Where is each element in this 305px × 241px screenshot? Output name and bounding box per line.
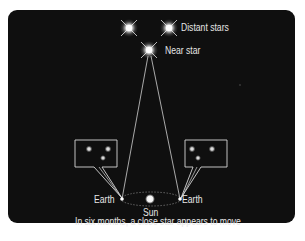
distant-star-2-icon	[160, 19, 178, 37]
right-view-bubble	[181, 140, 227, 198]
bubble-near-star-icon	[195, 155, 201, 161]
sight-line-right	[151, 56, 180, 199]
earth-left-icon	[120, 197, 124, 201]
bubble-star-icon	[105, 146, 112, 153]
bubble-star-icon	[209, 146, 216, 153]
sight-line-left	[122, 56, 148, 199]
bubble-near-star-icon	[100, 155, 106, 161]
near-star-label: Near star	[165, 45, 200, 56]
distant-stars-label: Distant stars	[181, 22, 229, 33]
near-star-icon	[140, 41, 158, 59]
sight-lines	[122, 56, 180, 199]
parallax-diagram-graphics	[0, 0, 305, 241]
sun-icon	[145, 194, 155, 204]
bubble-star-icon	[189, 146, 196, 153]
earth-left-label: Earth	[94, 194, 115, 205]
left-view-bubble	[75, 140, 122, 198]
bubble-star-icon	[86, 146, 93, 153]
distant-star-1-icon	[120, 19, 138, 37]
caption: In six months, a close star appears to m…	[75, 216, 230, 227]
background-star-speck	[239, 84, 241, 86]
earth-right-label: Earth	[182, 194, 203, 205]
